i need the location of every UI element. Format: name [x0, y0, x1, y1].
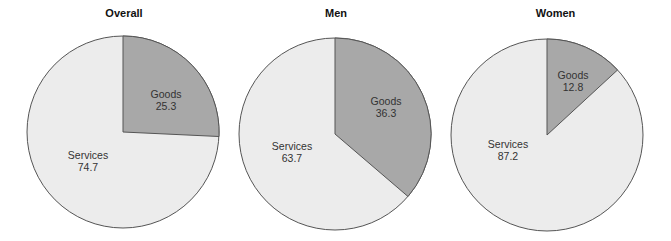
goods-value: 36.3: [371, 107, 402, 119]
services-name: Services: [272, 140, 312, 152]
pie-men-svg: [224, 0, 448, 241]
pie-overall-svg: [0, 0, 248, 241]
goods-value: 25.3: [151, 100, 182, 112]
goods-label: Goods 36.3: [371, 95, 402, 119]
services-value: 63.7: [272, 152, 312, 164]
goods-name: Goods: [558, 69, 589, 81]
goods-name: Goods: [151, 88, 182, 100]
pie-chart-men: Men Goods 36.3 Services 63.7: [224, 0, 448, 241]
services-name: Services: [488, 138, 528, 150]
pie-chart-women: Women Goods 12.8 Services 87.2: [440, 0, 671, 241]
goods-label: Goods 25.3: [151, 88, 182, 112]
pie-women-svg: [440, 0, 671, 241]
services-label: Services 74.7: [68, 149, 108, 173]
goods-label: Goods 12.8: [558, 69, 589, 93]
services-label: Services 63.7: [272, 140, 312, 164]
services-label: Services 87.2: [488, 138, 528, 162]
services-value: 87.2: [488, 150, 528, 162]
services-value: 74.7: [68, 161, 108, 173]
slice-goods: [123, 36, 219, 137]
goods-name: Goods: [371, 95, 402, 107]
pie-chart-overall: Overall Goods 25.3 Services 74.7: [0, 0, 248, 241]
services-name: Services: [68, 149, 108, 161]
goods-value: 12.8: [558, 81, 589, 93]
